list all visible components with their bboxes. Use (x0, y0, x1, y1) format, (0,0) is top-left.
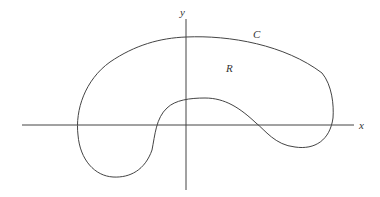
curve-c (77, 37, 333, 177)
y-axis-label: y (179, 6, 185, 18)
curve-label: C (253, 28, 261, 40)
diagram-canvas: y x C R (0, 0, 380, 197)
region-label: R (225, 62, 233, 74)
x-axis-label: x (358, 119, 364, 131)
